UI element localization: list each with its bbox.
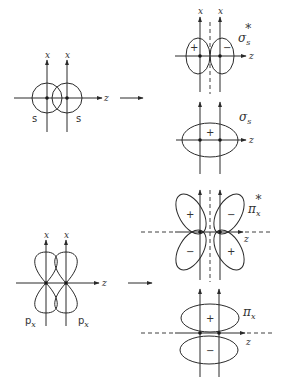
nucleus-left <box>198 54 202 58</box>
x-axis-label: x <box>65 50 70 60</box>
nucleus-right <box>218 230 222 234</box>
x-axis-label: x <box>198 6 203 16</box>
nucleus-left <box>198 138 202 142</box>
mo-label-pi-x: πx <box>242 305 256 321</box>
x-axis-label: x <box>44 230 49 240</box>
nucleus-right <box>64 281 68 285</box>
px-atomic-orbitals: x x z px px <box>16 230 107 329</box>
mo-label-sigma-s: σs <box>239 110 251 126</box>
x-axis-label: x <box>45 50 50 60</box>
s-label-left: s <box>32 113 37 124</box>
nucleus-left <box>44 281 48 285</box>
z-axis-label: z <box>103 93 109 103</box>
z-axis-label: z <box>245 337 251 347</box>
mo-label-pi-x-star: πx* <box>247 193 261 218</box>
nucleus-right <box>217 331 221 335</box>
nucleus-right <box>218 138 222 142</box>
mo-label-sigma-s-star: σs* <box>238 22 251 47</box>
sign-plus: + <box>190 42 198 53</box>
nucleus-left <box>45 96 49 100</box>
px-label-right: px <box>78 315 89 329</box>
sigma-s-star-orbital: + − x x z σs* <box>175 6 254 94</box>
z-axis-label: z <box>101 278 107 288</box>
mo-formation-diagram: x x z s s + − x x z σs* + z σs <box>0 0 289 388</box>
sign-plus: + <box>186 209 194 220</box>
px-label-left: px <box>25 315 36 329</box>
sign-minus: − <box>206 345 214 356</box>
sign-plus: + <box>227 246 235 257</box>
pi-x-star-orbital: + − − + z πx* <box>141 189 273 282</box>
sign-minus: − <box>223 42 231 53</box>
s-label-right: s <box>76 113 81 124</box>
nucleus-left <box>198 230 202 234</box>
z-axis-label: z <box>248 135 254 145</box>
sign-plus: + <box>206 127 214 138</box>
sign-minus: − <box>186 246 194 257</box>
z-axis-label: z <box>243 234 249 244</box>
nucleus-right <box>65 96 69 100</box>
pi-x-orbital: + − z πx <box>141 289 275 377</box>
nucleus-left <box>198 331 202 335</box>
sigma-s-orbital: + z σs <box>176 102 254 174</box>
s-atomic-orbitals: x x z s s <box>14 50 109 132</box>
sign-plus: + <box>206 313 214 324</box>
x-axis-label: x <box>64 230 69 240</box>
nucleus-right <box>218 54 222 58</box>
x-axis-label: x <box>218 6 223 16</box>
sign-minus: − <box>227 209 235 220</box>
z-axis-label: z <box>248 51 254 61</box>
